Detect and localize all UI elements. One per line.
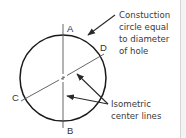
- callout-line-2: circle equal: [119, 22, 168, 32]
- centerline-arrow-diagonal: [77, 74, 108, 104]
- point-b-label: B: [67, 125, 73, 136]
- callout-line-4: of hole: [119, 46, 148, 56]
- point-a-label: A: [67, 23, 74, 34]
- isometric-circle-diagram: A B C D Constuction circle equal to diam…: [0, 0, 186, 138]
- centerline-callout: Isometric center lines: [111, 99, 162, 121]
- diagonal-center-line: [21, 54, 104, 101]
- point-d-label: D: [100, 42, 107, 53]
- callout-line-3: to diameter: [119, 34, 170, 44]
- point-c-label: C: [12, 92, 19, 103]
- centerline-line-1: Isometric: [111, 99, 151, 109]
- construction-callout: Constuction circle equal to diameter of …: [119, 10, 170, 56]
- centerline-line-2: center lines: [111, 111, 162, 121]
- construction-arrow: [88, 15, 115, 35]
- callout-line-1: Constuction: [119, 10, 170, 20]
